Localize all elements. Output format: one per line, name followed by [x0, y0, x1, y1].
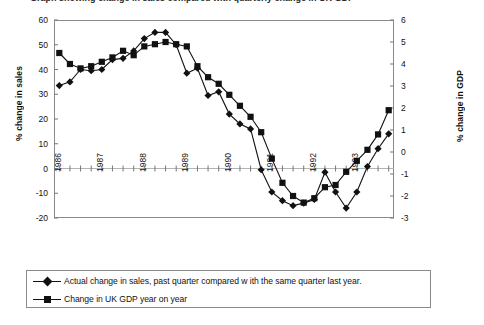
square-marker-icon: [290, 193, 296, 199]
y-tick-label-right: 1: [401, 126, 421, 134]
diamond-marker-icon: [119, 55, 126, 62]
x-tick-label: 1986: [53, 153, 63, 172]
y-tick-label-left: -20: [22, 214, 48, 222]
legend-item-sales: Actual change in sales, past quarter com…: [33, 274, 361, 288]
square-marker-icon: [141, 43, 147, 49]
y-tick-label-right: -2: [401, 192, 421, 200]
y-tick-label-left: -10: [22, 189, 48, 197]
square-marker-icon: [237, 103, 243, 109]
x-tick-label: 1989: [180, 153, 190, 172]
y-tick-label-right: 5: [401, 38, 421, 46]
diamond-marker-icon: [183, 70, 190, 77]
x-tick-label: 1987: [95, 153, 105, 172]
y-tick-label-right: 3: [401, 82, 421, 90]
diamond-marker-icon: [343, 205, 350, 212]
diamond-marker-icon: [364, 163, 371, 170]
square-marker-icon: [120, 48, 126, 54]
series-canvas: [0, 8, 484, 266]
diamond-marker-icon: [385, 130, 392, 137]
square-marker-icon: [88, 63, 94, 69]
series-line: [59, 42, 388, 203]
square-marker-icon: [33, 293, 61, 305]
square-marker-icon: [162, 39, 168, 45]
diamond-marker-icon: [332, 188, 339, 195]
diamond-marker-icon: [151, 29, 158, 36]
diamond-marker-icon: [353, 188, 360, 195]
square-marker-icon: [184, 43, 190, 49]
legend-label-sales: Actual change in sales, past quarter com…: [64, 276, 361, 286]
square-marker-icon: [216, 81, 222, 87]
square-marker-icon: [67, 61, 73, 67]
square-marker-icon: [77, 65, 83, 71]
square-marker-icon: [99, 59, 105, 65]
diamond-marker-icon: [215, 88, 222, 95]
x-tick-label: 1993: [350, 153, 360, 172]
square-marker-icon: [194, 63, 200, 69]
diamond-marker-icon: [56, 82, 63, 89]
y-tick-label-left: 30: [22, 90, 48, 98]
square-marker-icon: [56, 50, 62, 56]
chart-page: Graph showing change in sales compared w…: [0, 0, 484, 325]
y-tick-label-left: 40: [22, 66, 48, 74]
x-tick-label: 1992: [308, 153, 318, 172]
y-tick-label-left: 0: [22, 165, 48, 173]
y-tick-label-right: -3: [401, 214, 421, 222]
square-marker-icon: [226, 92, 232, 98]
square-marker-icon: [258, 129, 264, 135]
y-tick-label-right: 4: [401, 60, 421, 68]
x-tick-label: 1988: [138, 153, 148, 172]
square-marker-icon: [131, 52, 137, 58]
square-marker-icon: [152, 41, 158, 47]
legend-label-gdp: Change in UK GDP year on year: [64, 294, 187, 304]
y-tick-label-left: 60: [22, 16, 48, 24]
square-marker-icon: [247, 114, 253, 120]
diamond-marker-icon: [321, 169, 328, 176]
y-tick-label-left: 10: [22, 140, 48, 148]
diamond-marker-icon: [289, 202, 296, 209]
y-tick-label-left: 20: [22, 115, 48, 123]
square-marker-icon: [301, 200, 307, 206]
square-marker-icon: [279, 180, 285, 186]
y-tick-label-right: 2: [401, 104, 421, 112]
diamond-marker-icon: [247, 125, 254, 132]
square-marker-icon: [322, 184, 328, 190]
series-gdp: [56, 39, 392, 206]
chart-title-text: Graph showing change in sales compared w…: [30, 0, 354, 3]
square-marker-icon: [205, 74, 211, 80]
series-sales: [56, 29, 393, 212]
square-marker-icon: [311, 195, 317, 201]
square-marker-icon: [109, 54, 115, 60]
diamond-marker-icon: [33, 275, 61, 287]
square-marker-icon: [386, 107, 392, 113]
legend-item-gdp: Change in UK GDP year on year: [33, 292, 187, 306]
square-marker-icon: [173, 41, 179, 47]
x-tick-label: 1990: [223, 153, 233, 172]
y-tick-label-right: 0: [401, 148, 421, 156]
chart-area: % change in sales % change in GDP 605040…: [0, 8, 484, 266]
diamond-marker-icon: [258, 166, 265, 173]
y-tick-label-right: 6: [401, 16, 421, 24]
square-marker-icon: [364, 147, 370, 153]
diamond-marker-icon: [374, 145, 381, 152]
diamond-marker-icon: [204, 92, 211, 99]
y-tick-label-right: -1: [401, 170, 421, 178]
square-marker-icon: [375, 131, 381, 137]
square-marker-icon: [332, 182, 338, 188]
x-tick-label: 1991: [265, 153, 275, 172]
square-marker-icon: [343, 169, 349, 175]
chart-legend: Actual change in sales, past quarter com…: [26, 270, 431, 308]
y-tick-label-left: 50: [22, 41, 48, 49]
